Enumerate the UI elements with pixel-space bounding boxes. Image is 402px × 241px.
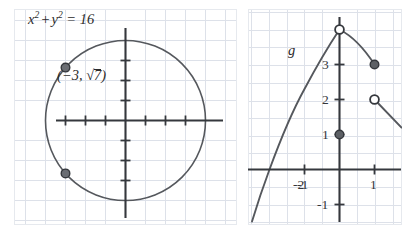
point-x-value: −3, (62, 67, 83, 83)
x-tick-label-neg1: -1 (297, 178, 308, 192)
piecewise-graph-panel (248, 9, 402, 225)
y-tick-label-1: 1 (322, 128, 329, 142)
equation-y-exponent: 2 (58, 9, 63, 20)
circle-graph-svg (14, 9, 237, 225)
open-point-vertex (335, 25, 344, 34)
point-lower (61, 169, 70, 178)
equation-plus: + (40, 11, 50, 27)
circle-equation-label: x2 + y2 = 16 (28, 12, 94, 27)
x-tick-label-1: 1 (370, 178, 377, 192)
filled-point-right-parabola (370, 60, 379, 69)
panel-background-right (248, 9, 402, 225)
function-label-g: g (288, 43, 295, 58)
circle-graph-panel (14, 9, 237, 225)
y-tick-label-3: 3 (322, 58, 329, 72)
math-figure: x2 + y2 = 16 (−3, √7) (0, 0, 402, 241)
open-point-line-start (370, 95, 379, 104)
point-coordinate-label: (−3, √7) (57, 68, 106, 83)
equation-rhs: 16 (80, 11, 95, 27)
filled-point-origin-branch (335, 130, 344, 139)
equation-equals: = (66, 11, 76, 27)
y-tick-label-2: 2 (322, 93, 329, 107)
y-tick-label-neg1: -1 (317, 198, 328, 212)
paren-close: ) (101, 67, 106, 83)
piecewise-graph-svg (248, 9, 402, 225)
sqrt-icon: √7 (86, 68, 101, 83)
